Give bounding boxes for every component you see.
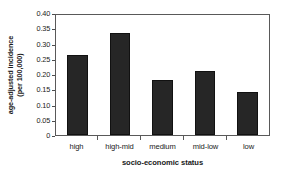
- y-axis-tick-label: 0.10: [24, 102, 50, 110]
- x-axis-tick-label: medium: [141, 142, 184, 154]
- y-axis-tick-label: 0.30: [24, 41, 50, 49]
- y-axis-tick-label: 0.40: [24, 10, 50, 18]
- y-axis-tick-labels: 0.400.350.300.250.200.150.100.050: [24, 14, 50, 136]
- x-axis-tick-mark: [141, 136, 184, 140]
- bar: [152, 80, 172, 135]
- y-axis-tick-label: 0.25: [24, 56, 50, 64]
- y-axis-tick-label: 0.05: [24, 117, 50, 125]
- bar: [195, 71, 215, 135]
- y-axis-title-line2: (per 100,000): [15, 36, 24, 115]
- x-axis-tick-label: high: [55, 142, 98, 154]
- x-axis-tick-marks: [55, 136, 270, 140]
- bar-slot: [141, 15, 184, 135]
- y-axis-title-line1: age-adjusted incidence: [6, 36, 15, 115]
- bar-chart-figure: age-adjusted incidence (per 100,000) 0.4…: [0, 0, 288, 178]
- x-axis-tick-mark: [184, 136, 227, 140]
- x-axis-tick-label: high-mid: [98, 142, 141, 154]
- x-axis-tick-labels: highhigh-midmediummid-lowlow: [55, 142, 270, 154]
- x-axis-tick-label: low: [227, 142, 270, 154]
- x-axis-tick-mark: [98, 136, 141, 140]
- y-axis-tick-label: 0.35: [24, 25, 50, 33]
- y-axis-tick-label: 0.20: [24, 71, 50, 79]
- y-axis-tick-label: 0: [24, 132, 50, 140]
- bar-series: [56, 15, 269, 135]
- bar-slot: [184, 15, 227, 135]
- x-axis-tick-mark: [227, 136, 270, 140]
- bar-slot: [99, 15, 142, 135]
- bar: [237, 92, 257, 135]
- bar: [110, 33, 130, 135]
- bar: [67, 55, 87, 135]
- y-axis-tick-label: 0.15: [24, 86, 50, 94]
- x-axis-tick-mark: [55, 136, 98, 140]
- plot-area: [55, 14, 270, 136]
- x-axis-title: socio-economic status: [55, 158, 270, 167]
- bar-slot: [56, 15, 99, 135]
- bar-slot: [226, 15, 269, 135]
- x-axis-tick-label: mid-low: [184, 142, 227, 154]
